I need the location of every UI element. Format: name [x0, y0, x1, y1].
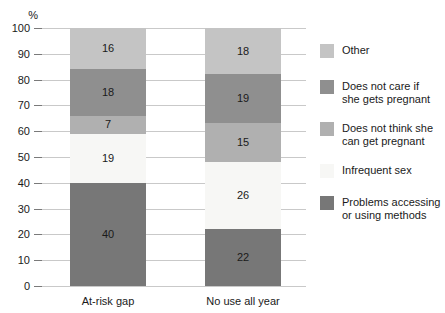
bar-segment-value: 16 [102, 43, 114, 54]
legend-label: Other [342, 44, 370, 57]
legend-label: Problems accessing or using methods [342, 196, 440, 222]
legend-item: Infrequent sex [320, 164, 412, 178]
legend-label: Infrequent sex [342, 164, 412, 177]
bar-segment: 7 [70, 116, 146, 134]
legend-swatch [320, 80, 334, 94]
y-axis-unit-label: % [18, 10, 38, 21]
y-axis-tick-label: 70 [4, 100, 30, 111]
bar-segment: 15 [205, 123, 281, 162]
bar-segment: 18 [205, 28, 281, 74]
legend-swatch [320, 122, 334, 136]
bar-segment: 19 [70, 134, 146, 183]
y-axis-tick-mark [34, 131, 42, 132]
y-axis-tick-label: 40 [4, 178, 30, 189]
y-axis-tick-label: 10 [4, 255, 30, 266]
legend-item: Does not think she can get pregnant [320, 122, 433, 148]
y-axis-tick-label: 90 [4, 49, 30, 60]
bar-segment: 18 [70, 69, 146, 115]
y-axis-tick-label: 60 [4, 126, 30, 137]
x-axis-category-label: No use all year [175, 295, 311, 307]
legend-item: Does not care if she gets pregnant [320, 80, 430, 106]
legend-item: Other [320, 44, 370, 58]
bar-segment: 26 [205, 162, 281, 229]
y-axis-tick-mark [34, 157, 42, 158]
legend-label: Does not care if she gets pregnant [342, 80, 430, 106]
bar-segment-value: 26 [237, 190, 249, 201]
y-axis-tick-label: 20 [4, 229, 30, 240]
legend-item: Problems accessing or using methods [320, 196, 440, 222]
bar-stack: 401971816 [70, 28, 146, 286]
bar-stack: 2226151918 [205, 28, 281, 286]
bar-segment-value: 19 [102, 153, 114, 164]
y-axis-tick-mark [34, 54, 42, 55]
legend-swatch [320, 196, 334, 210]
y-axis-tick-label: 80 [4, 75, 30, 86]
y-axis-tick-mark [34, 183, 42, 184]
stacked-bar-chart: % 0102030405060708090100 401971816222615… [0, 0, 445, 313]
y-axis-tick-mark [34, 80, 42, 81]
y-axis-tick-mark [34, 260, 42, 261]
x-axis-category-label: At-risk gap [40, 295, 176, 307]
y-axis-tick-mark [34, 234, 42, 235]
bar-segment-value: 22 [237, 252, 249, 263]
bar-segment: 40 [70, 183, 146, 286]
bar-segment-value: 15 [237, 137, 249, 148]
bar-segment: 16 [70, 28, 146, 69]
legend-swatch [320, 164, 334, 178]
bar-segment-value: 19 [237, 93, 249, 104]
bar-segment-value: 18 [102, 87, 114, 98]
y-axis-tick-mark [34, 28, 42, 29]
bar-segment-value: 7 [105, 119, 111, 130]
bar-segment-value: 40 [102, 229, 114, 240]
bar-segment: 22 [205, 229, 281, 286]
bar-segment: 19 [205, 74, 281, 123]
y-axis-tick-label: 0 [4, 281, 30, 292]
y-axis-tick-mark [34, 105, 42, 106]
y-axis-tick-label: 50 [4, 152, 30, 163]
y-axis-tick-mark [34, 209, 42, 210]
gridline [42, 286, 306, 287]
legend-swatch [320, 44, 334, 58]
y-axis-tick-mark [34, 286, 42, 287]
legend-label: Does not think she can get pregnant [342, 122, 433, 148]
bar-segment-value: 18 [237, 46, 249, 57]
y-axis-tick-label: 100 [4, 23, 30, 34]
y-axis-tick-label: 30 [4, 204, 30, 215]
